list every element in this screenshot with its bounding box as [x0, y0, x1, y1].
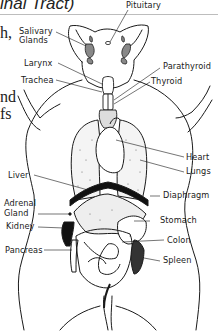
left-foreleg [24, 90, 60, 118]
label-parathyroid: Parathyroid [163, 62, 211, 71]
right-hindleg [116, 306, 156, 330]
label-stomach: Stomach [160, 216, 197, 225]
pituitary-gland [106, 41, 111, 44]
label-diaphragm: Diaphragm [163, 191, 209, 200]
label-lungs: Lungs [186, 167, 211, 176]
label-adrenal-gland-line1: Adrenal [4, 199, 36, 208]
label-heart: Heart [186, 153, 209, 162]
label-pancreas: Pancreas [5, 246, 43, 255]
label-spleen: Spleen [163, 256, 192, 265]
spleen [131, 240, 144, 274]
right-foreleg [176, 86, 210, 118]
label-trachea: Trachea [21, 76, 54, 85]
label-salivary-glands-line2: Glands [19, 36, 48, 45]
diagram-page: inal Tract) h, nd fs [0, 0, 218, 335]
salivary-gland-left [85, 44, 94, 58]
heart [96, 127, 124, 173]
label-kidney: Kidney [6, 222, 35, 231]
label-larynx: Larynx [24, 59, 52, 68]
label-pituitary: Pituitary [126, 1, 161, 10]
salivary-gland-right [122, 44, 131, 58]
label-colon: Colon [167, 236, 191, 245]
left-hindleg [60, 306, 100, 330]
kidney [62, 222, 74, 246]
larynx [102, 77, 113, 95]
label-adrenal-gland-line2: Gland [4, 209, 29, 218]
label-liver: Liver [8, 171, 29, 180]
label-thyroid: Thyroid [151, 77, 182, 86]
